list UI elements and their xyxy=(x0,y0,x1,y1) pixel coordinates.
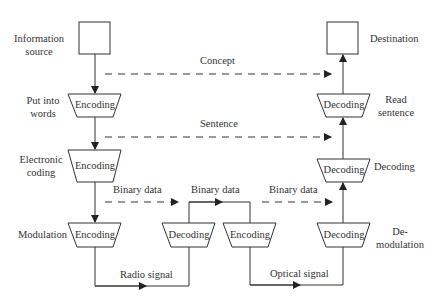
destination-box xyxy=(327,22,358,54)
edge-label-binary-data-1: Binary data xyxy=(113,183,162,196)
binary-data-connector xyxy=(189,202,250,223)
label-electronic-coding: Electronic coding xyxy=(14,153,68,179)
node-encoding-3: Encoding xyxy=(70,229,120,240)
node-decoding-1: Decoding xyxy=(319,99,369,110)
label-information-source: Information source xyxy=(10,32,68,58)
label-destination: Destination xyxy=(370,32,418,45)
edge-label-radio-signal: Radio signal xyxy=(120,268,173,281)
label-demodulation: De- modulation xyxy=(372,225,428,251)
edge-label-sentence: Sentence xyxy=(200,117,238,130)
node-encoding-1: Encoding xyxy=(70,99,120,110)
node-decoding-3: Decoding xyxy=(319,229,369,240)
edge-label-binary-data-2: Binary data xyxy=(191,183,240,196)
edge-label-optical-signal: Optical signal xyxy=(270,267,329,280)
label-modulation: Modulation xyxy=(18,228,67,241)
source-box xyxy=(79,22,110,54)
node-encoding-2: Encoding xyxy=(70,160,120,171)
label-decoding-right: Decoding xyxy=(374,160,415,173)
node-decoding-2: Decoding xyxy=(319,164,369,175)
label-put-into-words: Put into words xyxy=(20,94,66,120)
edge-label-binary-data-3: Binary data xyxy=(269,183,318,196)
edge-label-concept: Concept xyxy=(200,54,235,67)
node-encoding-mid: Encoding xyxy=(225,229,275,240)
label-read-sentence: Read sentence xyxy=(375,93,417,119)
node-decoding-mid: Decoding xyxy=(164,229,214,240)
